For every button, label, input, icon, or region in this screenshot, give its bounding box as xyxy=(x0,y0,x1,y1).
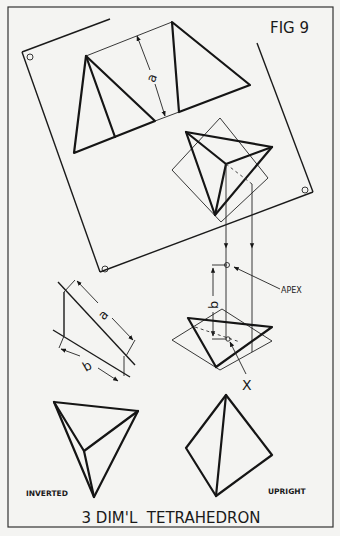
hole-icon xyxy=(27,54,33,60)
outer-border xyxy=(8,7,333,527)
apex-label: APEX xyxy=(281,286,302,295)
dim-a-top: a xyxy=(143,72,160,85)
figure-label: FIG 9 xyxy=(270,19,309,37)
inverted-label: INVERTED xyxy=(26,489,68,498)
inverted-tetrahedron xyxy=(54,402,138,497)
plan-view xyxy=(172,118,272,248)
x-label: X xyxy=(242,377,252,393)
dim-b-elev: b xyxy=(206,301,221,309)
top-faces: a xyxy=(74,22,250,153)
tetrahedron-drawing: FIG 9 a b xyxy=(0,0,340,536)
elevation-view: b APEX X xyxy=(172,248,302,393)
dim-a-side: a xyxy=(95,307,111,323)
side-construction: a b xyxy=(53,280,135,381)
upright-tetrahedron xyxy=(186,395,272,496)
upright-label: UPRIGHT xyxy=(268,487,307,496)
dim-b-side: b xyxy=(80,357,95,374)
hole-icon xyxy=(302,187,308,193)
figure-title: 3 DIM'L TETRAHEDRON xyxy=(82,509,261,527)
